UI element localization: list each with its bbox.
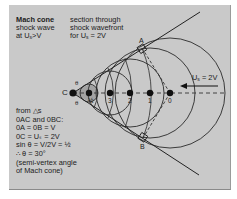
velocity-label: Us = 2V: [192, 74, 217, 84]
label-C: C: [62, 89, 68, 98]
section-line3: for Us = 2V: [70, 32, 106, 42]
radius-0A: [142, 48, 170, 93]
label-half: ½: [88, 97, 93, 106]
label-A: A: [139, 37, 144, 46]
point-0: [167, 90, 173, 96]
point-1: [147, 90, 153, 96]
point-half: [86, 90, 92, 96]
theta-upper: θ: [75, 79, 78, 88]
point-3: [107, 90, 113, 96]
point-C: [69, 89, 76, 96]
derivation-line: of Mach cone): [16, 167, 77, 176]
derivation-block: from △s 0AC and 0BC: 0A = 0B = V 0C = Uₛ…: [16, 107, 77, 176]
arrow-head-icon: [180, 83, 187, 89]
label-1: 1: [148, 97, 152, 106]
title-line3: at Us>V: [16, 32, 41, 42]
point-2: [127, 90, 133, 96]
label-2: 2: [128, 97, 132, 106]
label-B: B: [140, 143, 145, 152]
label-0: 0: [168, 97, 172, 106]
label-3: 3: [108, 97, 112, 106]
